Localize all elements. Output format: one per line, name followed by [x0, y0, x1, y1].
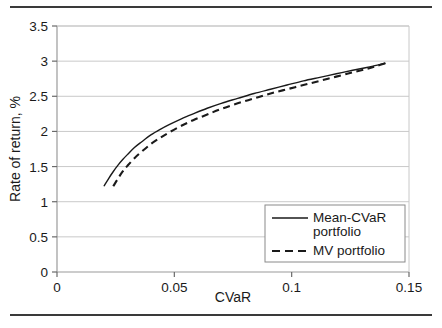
x-tick-label-0: 0	[53, 280, 61, 295]
legend-label-mean-cvar-line1: Mean-CVaR	[313, 210, 387, 225]
x-axis-title: CVaR	[215, 289, 251, 305]
chart-canvas: 00.511.522.533.5 00.050.10.15 CVaR Rate …	[0, 0, 442, 328]
legend-label-mean-cvar-line2: portfolio	[313, 224, 361, 239]
y-tick-label-7: 3.5	[29, 19, 48, 34]
y-axis-title: Rate of return, %	[7, 96, 23, 202]
x-tick-label-3: 0.15	[396, 280, 422, 295]
y-tick-label-5: 2.5	[29, 89, 48, 104]
y-tick-label-1: 0.5	[29, 230, 48, 245]
y-tick-label-4: 2	[40, 124, 48, 139]
x-tick-label-1: 0.05	[161, 280, 187, 295]
y-tick-label-3: 1.5	[29, 160, 48, 175]
y-tick-label-6: 3	[40, 54, 48, 69]
legend: Mean-CVaR portfolio MV portfolio	[265, 205, 405, 262]
legend-label-mv-portfolio: MV portfolio	[313, 243, 385, 258]
x-tick-label-2: 0.1	[282, 280, 301, 295]
y-tick-label-2: 1	[40, 195, 48, 210]
y-tick-label-0: 0	[40, 265, 48, 280]
y-axis-ticks: 00.511.522.533.5	[29, 19, 57, 280]
figure-container: 00.511.522.533.5 00.050.10.15 CVaR Rate …	[0, 0, 442, 328]
